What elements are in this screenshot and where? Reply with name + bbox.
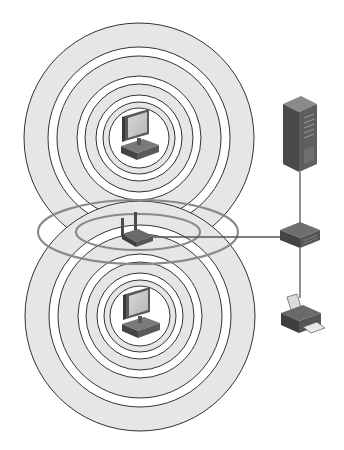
server-tower-icon[interactable]: [283, 96, 317, 172]
network-switch-icon[interactable]: [280, 222, 320, 248]
network-diagram: Wireless network coverage diagram: [0, 0, 344, 450]
printer-icon[interactable]: [281, 294, 325, 333]
